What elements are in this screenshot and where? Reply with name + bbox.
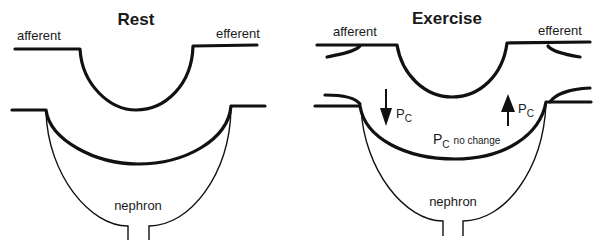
glomerulus-diagram: Rest afferent efferent nephron Exercise … <box>0 0 602 252</box>
rest-efferent-label: efferent <box>216 26 260 41</box>
exercise-capillary-lower-wall <box>315 102 591 159</box>
arrow-down-icon <box>380 89 392 126</box>
afferent-constriction-upper <box>327 46 360 57</box>
rest-capillary-lower-wall <box>12 106 265 164</box>
exercise-panel: Exercise afferent efferent nephron PC PC… <box>315 9 591 236</box>
pc-left-label: PC <box>396 106 412 124</box>
efferent-constriction-lower <box>550 88 590 102</box>
rest-afferent-label: afferent <box>17 28 61 43</box>
pc-right-label: PC <box>518 101 534 119</box>
afferent-constriction-lower <box>325 95 360 104</box>
exercise-nephron-capsule <box>361 104 546 236</box>
efferent-constriction-upper <box>548 46 580 57</box>
exercise-capillary-upper-wall <box>317 42 590 97</box>
pc-no-change-label: PCno change <box>433 131 501 150</box>
exercise-efferent-label: efferent <box>538 23 582 38</box>
exercise-title: Exercise <box>412 9 482 28</box>
rest-capillary-upper-wall <box>15 45 257 110</box>
rest-panel: Rest afferent efferent nephron <box>12 10 265 240</box>
rest-title: Rest <box>118 10 155 29</box>
rest-nephron-label: nephron <box>114 198 162 213</box>
exercise-nephron-label: nephron <box>429 194 477 209</box>
rest-nephron-capsule <box>46 110 231 240</box>
arrow-up-icon <box>501 94 515 126</box>
exercise-afferent-label: afferent <box>333 24 377 39</box>
